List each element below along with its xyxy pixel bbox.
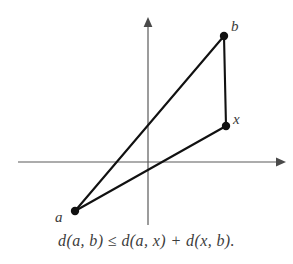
point-x xyxy=(222,122,230,130)
segment-a-x xyxy=(75,126,226,211)
point-a xyxy=(71,207,79,215)
point-label-x: x xyxy=(233,112,240,127)
point-b xyxy=(220,32,228,40)
x-axis-arrowhead-icon xyxy=(276,158,286,167)
point-label-b: b xyxy=(231,19,239,34)
figure-caption: d(a, b) ≤ d(a, x) + d(x, b). xyxy=(0,232,293,250)
segment-x-b xyxy=(224,36,226,126)
figure-container: b x a d(a, b) ≤ d(a, x) + d(x, b). xyxy=(0,0,293,264)
y-axis-arrowhead-icon xyxy=(144,17,153,27)
point-label-a: a xyxy=(55,210,63,225)
triangle-inequality-diagram xyxy=(0,0,293,264)
segment-a-b xyxy=(75,36,224,211)
